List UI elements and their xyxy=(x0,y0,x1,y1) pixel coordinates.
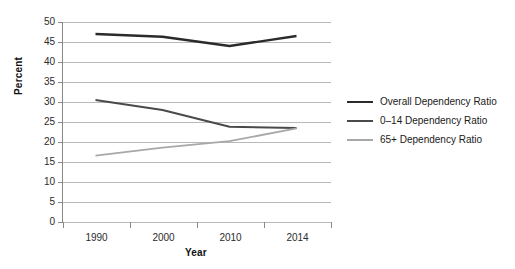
x-axis-tick-label: 2000 xyxy=(152,233,174,243)
y-axis-tick-label: 30 xyxy=(44,97,55,107)
y-axis-tick-label: 10 xyxy=(44,177,55,187)
legend-line-swatch xyxy=(347,120,373,122)
legend-item-label: 65+ Dependency Ratio xyxy=(380,135,482,145)
x-axis-tick xyxy=(264,222,265,228)
legend-item-label: Overall Dependency Ratio xyxy=(380,97,497,107)
y-axis-tick-label: 0 xyxy=(49,217,55,227)
y-axis-tick-label: 50 xyxy=(44,17,55,27)
dependency-ratio-line-chart: Percent 05101520253035404550199020002010… xyxy=(0,0,515,269)
y-axis-title: Percent xyxy=(13,57,24,95)
legend-item[interactable]: 65+ Dependency Ratio xyxy=(347,130,497,149)
y-axis-tick-label: 40 xyxy=(44,57,55,67)
y-axis-tick-label: 5 xyxy=(49,197,55,207)
series-lines xyxy=(62,22,330,222)
y-axis-tick-label: 45 xyxy=(44,37,55,47)
y-axis-tick-label: 15 xyxy=(44,157,55,167)
x-axis-tick xyxy=(197,222,198,228)
legend-item-label: 0–14 Dependency Ratio xyxy=(380,116,487,126)
x-axis-tick-label: 1990 xyxy=(85,233,107,243)
x-axis-title: Year xyxy=(62,247,330,258)
x-axis-tick xyxy=(130,222,131,228)
y-axis-tick-label: 25 xyxy=(44,117,55,127)
series-line xyxy=(96,34,297,46)
x-axis-tick-label: 2014 xyxy=(286,233,308,243)
x-axis-tick xyxy=(63,222,64,228)
series-line xyxy=(96,128,297,155)
y-axis-tick-label: 20 xyxy=(44,137,55,147)
legend-line-swatch xyxy=(347,139,373,141)
chart-legend: Overall Dependency Ratio0–14 Dependency … xyxy=(347,92,497,149)
y-axis-tick-label: 35 xyxy=(44,77,55,87)
legend-item[interactable]: 0–14 Dependency Ratio xyxy=(347,111,497,130)
x-axis-tick-label: 2010 xyxy=(219,233,241,243)
series-line xyxy=(96,100,297,128)
legend-line-swatch xyxy=(347,101,373,103)
legend-item[interactable]: Overall Dependency Ratio xyxy=(347,92,497,111)
x-axis-tick xyxy=(331,222,332,228)
